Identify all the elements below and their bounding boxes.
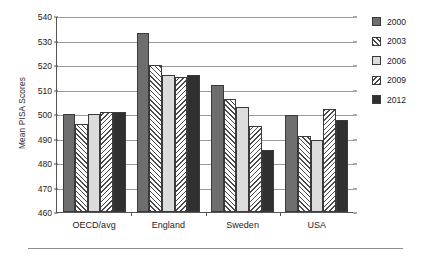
- y-axis-tick-label: 470: [38, 184, 52, 194]
- y-axis-tick-label: 460: [38, 208, 52, 218]
- legend-swatch-icon: [372, 37, 381, 46]
- bar: [236, 107, 249, 212]
- y-axis-tick-label: 490: [38, 135, 52, 145]
- bar: [211, 85, 224, 212]
- legend-item: 2000: [372, 12, 430, 32]
- bar: [298, 136, 311, 212]
- legend-swatch-icon: [372, 76, 381, 85]
- legend-label: 2006: [387, 56, 406, 66]
- plot-inner: 460470480490500510520530540OECD/avgEngla…: [57, 17, 353, 212]
- legend-label: 2009: [387, 75, 406, 85]
- legend-label: 2012: [387, 95, 406, 105]
- bar: [63, 114, 76, 212]
- bar: [336, 120, 349, 212]
- bar: [311, 140, 324, 212]
- bar: [100, 112, 113, 212]
- legend-label: 2003: [387, 36, 406, 46]
- bar: [323, 109, 336, 212]
- bar: [75, 124, 88, 212]
- y-axis-tick-label: 500: [38, 110, 52, 120]
- x-axis-tick-label: OECD/avg: [73, 220, 116, 230]
- bar-group: USA: [280, 17, 354, 212]
- y-axis-tick-label: 530: [38, 37, 52, 47]
- bar: [285, 115, 298, 212]
- chart-legend: 20002003200620092012: [372, 12, 430, 110]
- bar-group: England: [131, 17, 205, 212]
- bar: [249, 126, 262, 212]
- y-axis-tick-label: 480: [38, 159, 52, 169]
- x-axis-tick-mark: [131, 212, 132, 216]
- bar-group: OECD/avg: [57, 17, 131, 212]
- x-axis-tick-label: England: [152, 220, 185, 230]
- y-axis-tick-label: 510: [38, 86, 52, 96]
- bar: [113, 112, 126, 212]
- legend-item: 2012: [372, 90, 430, 110]
- pisa-scores-bar-chart: Mean PISA Scores 46047048049050051052053…: [0, 0, 431, 257]
- bar: [88, 114, 101, 212]
- x-axis-tick-label: Sweden: [226, 220, 259, 230]
- bar: [175, 77, 188, 212]
- legend-item: 2009: [372, 71, 430, 91]
- legend-item: 2003: [372, 32, 430, 52]
- x-axis-tick-mark: [280, 212, 281, 216]
- x-axis-tick-label: USA: [308, 220, 327, 230]
- bar: [224, 99, 237, 212]
- bar: [187, 75, 200, 212]
- y-axis-tick-label: 520: [38, 61, 52, 71]
- bar: [149, 65, 162, 212]
- x-axis-tick-mark: [206, 212, 207, 216]
- bar: [262, 150, 275, 212]
- y-axis-tick-mark-right: [353, 213, 357, 214]
- legend-swatch-icon: [372, 95, 381, 104]
- legend-swatch-icon: [372, 17, 381, 26]
- y-axis-title: Mean PISA Scores: [17, 38, 27, 188]
- plot-area: 460470480490500510520530540OECD/avgEngla…: [56, 17, 353, 213]
- bar: [162, 75, 175, 212]
- legend-label: 2000: [387, 17, 406, 27]
- bar: [137, 33, 150, 212]
- legend-swatch-icon: [372, 56, 381, 65]
- y-axis-tick-mark: [54, 213, 58, 214]
- legend-item: 2006: [372, 51, 430, 71]
- page-separator-rule: [28, 248, 403, 249]
- y-axis-tick-label: 540: [38, 12, 52, 22]
- bar-group: Sweden: [206, 17, 280, 212]
